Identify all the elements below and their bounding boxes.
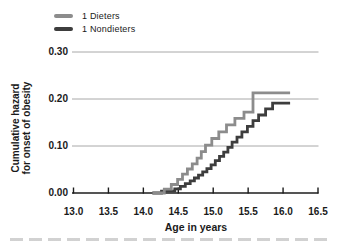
y-axis-title-line2: for onset of obesity xyxy=(21,82,32,175)
legend-label: 1 Dieters xyxy=(82,11,120,21)
legend-swatch xyxy=(54,14,73,18)
legend: 1 Dieters 1 Nondieters xyxy=(54,11,135,34)
x-axis-title: Age in years xyxy=(73,221,319,233)
legend-label: 1 Nondieters xyxy=(82,24,135,34)
x-tick-label-16.5: 16.5 xyxy=(308,206,328,217)
y-tick-label-0.00: 0.00 xyxy=(49,187,69,198)
x-tick-label-16.0: 16.0 xyxy=(273,206,293,217)
x-tick-label-14.0: 14.0 xyxy=(134,206,154,217)
cropped-caption-remnant xyxy=(10,238,328,241)
y-tick-label-0.10: 0.10 xyxy=(49,140,69,151)
y-tick-label-0.30: 0.30 xyxy=(49,46,69,57)
legend-item-nondieters: 1 Nondieters xyxy=(54,24,135,34)
x-tick-label-14.5: 14.5 xyxy=(169,206,189,217)
plot-svg: 13.013.514.014.515.015.516.016.50.000.10… xyxy=(0,0,344,242)
y-axis-title: Cumulative hazard for onset of obesity xyxy=(10,82,32,175)
x-tick-label-15.0: 15.0 xyxy=(203,206,223,217)
legend-item-dieters: 1 Dieters xyxy=(54,11,135,21)
legend-swatch xyxy=(54,27,73,31)
x-tick-label-15.5: 15.5 xyxy=(238,206,258,217)
y-axis-title-line1: Cumulative hazard xyxy=(10,82,21,175)
x-tick-label-13.0: 13.0 xyxy=(64,206,84,217)
y-tick-label-0.20: 0.20 xyxy=(49,93,69,104)
series-path-1-nondieters xyxy=(152,103,290,193)
x-tick-label-13.5: 13.5 xyxy=(99,206,119,217)
hazard-figure: 13.013.514.014.515.015.516.016.50.000.10… xyxy=(0,0,344,242)
